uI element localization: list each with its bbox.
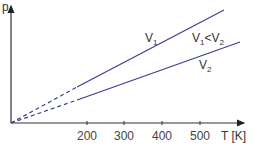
v2-line (80, 42, 240, 99)
y-axis-label: p (2, 0, 9, 14)
chart-canvas (0, 0, 254, 150)
v1-line (77, 10, 224, 87)
v2-label: V2 (199, 58, 211, 74)
x-tick-300: 300 (114, 129, 134, 143)
v1-lt-v2-label: V1<V2 (192, 31, 224, 47)
v2-line-dashed (11, 99, 80, 123)
x-tick-500: 500 (190, 129, 210, 143)
v1-line-dashed (11, 87, 77, 123)
x-tick-200: 200 (77, 129, 97, 143)
x-axis-label: T [K] (221, 129, 246, 143)
v1-label: V1 (145, 31, 157, 47)
x-tick-400: 400 (152, 129, 172, 143)
